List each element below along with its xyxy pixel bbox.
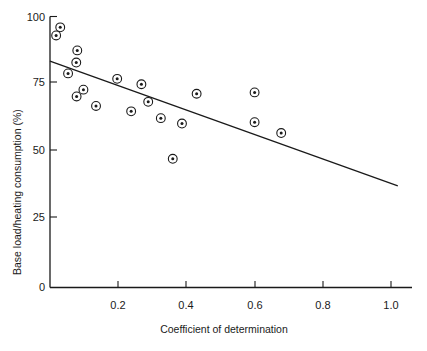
- y-tick-label: 0: [39, 281, 45, 293]
- data-point: [277, 129, 286, 138]
- x-tick-marks: [118, 281, 391, 288]
- data-point: [113, 74, 122, 83]
- data-point-core: [95, 104, 98, 107]
- y-tick-label: 50: [33, 144, 45, 156]
- data-point: [56, 23, 65, 32]
- x-tick-label: 0.2: [110, 299, 125, 311]
- data-point: [72, 92, 81, 101]
- data-point-core: [82, 88, 85, 91]
- data-point-core: [253, 91, 256, 94]
- y-tick-label: 100: [27, 11, 45, 23]
- data-point: [127, 107, 136, 116]
- data-point-core: [75, 61, 78, 64]
- x-axis-title: Coefficient of determination: [160, 323, 288, 335]
- data-point-core: [76, 49, 79, 52]
- data-point-core: [159, 117, 162, 120]
- data-point: [92, 102, 101, 111]
- data-point: [156, 114, 165, 123]
- data-point-core: [75, 95, 78, 98]
- data-point-core: [180, 122, 183, 125]
- data-point-core: [253, 121, 256, 124]
- data-point: [64, 69, 73, 78]
- data-point-core: [116, 77, 119, 80]
- x-tick-label: 1.0: [383, 299, 398, 311]
- y-tick-labels: 100 75 50 25 0: [27, 11, 45, 293]
- x-tick-labels: 0.2 0.4 0.6 0.8 1.0: [110, 299, 398, 311]
- data-point: [178, 119, 187, 128]
- data-point: [79, 85, 88, 94]
- y-tick-label: 75: [33, 76, 45, 88]
- data-point-core: [195, 92, 198, 95]
- scatter-plot-figure: Base load/heating consumption (%) Coeffi…: [0, 0, 427, 351]
- data-point: [192, 89, 201, 98]
- data-point-core: [67, 72, 70, 75]
- x-tick-label: 0.4: [178, 299, 193, 311]
- data-point: [137, 80, 146, 89]
- y-tick-marks: [50, 17, 57, 218]
- data-point-core: [140, 83, 143, 86]
- data-point: [250, 118, 259, 127]
- chart-canvas: Base load/heating consumption (%) Coeffi…: [0, 0, 427, 351]
- x-tick-label: 0.6: [247, 299, 262, 311]
- y-tick-label: 25: [33, 211, 45, 223]
- regression-line: [50, 61, 398, 186]
- data-point-core: [147, 100, 150, 103]
- data-point: [144, 97, 153, 106]
- data-point: [168, 154, 177, 163]
- data-point: [250, 88, 259, 97]
- data-point: [52, 31, 61, 40]
- y-axis-title: Base load/heating consumption (%): [11, 109, 23, 275]
- data-point: [72, 58, 81, 67]
- data-point-core: [280, 132, 283, 135]
- data-point-core: [171, 157, 174, 160]
- data-point-core: [130, 110, 133, 113]
- data-points-layer: [52, 23, 286, 163]
- data-point: [73, 46, 82, 55]
- data-point-core: [59, 26, 62, 29]
- x-tick-label: 0.8: [315, 299, 330, 311]
- data-point-core: [55, 34, 58, 37]
